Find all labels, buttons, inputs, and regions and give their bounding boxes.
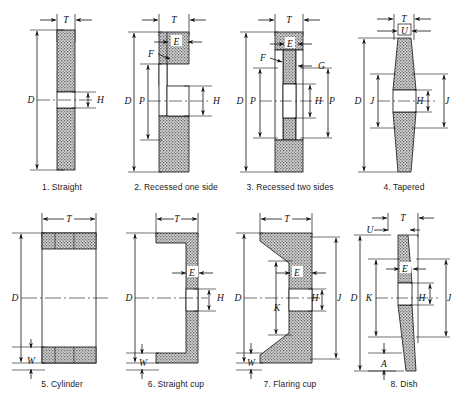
shape-drawing-2: T E	[118, 6, 234, 186]
shape-drawing-3: T E	[232, 6, 348, 186]
dim-label-J: J	[447, 293, 452, 303]
wheel-taper-lower	[393, 112, 416, 172]
shape-caption-8: 8. Dish	[346, 379, 462, 389]
arbor-hole	[186, 289, 198, 311]
dim-label-T: T	[174, 214, 180, 224]
dim-E-8: E	[386, 262, 426, 274]
dim-label-D: D	[125, 293, 133, 303]
shape-drawing-8: T U E	[346, 203, 462, 383]
wheel-cap-bottom	[275, 140, 303, 172]
dim-label-H: H	[416, 96, 425, 106]
arbor-hole	[398, 283, 412, 305]
dim-label-H: H	[212, 96, 221, 106]
wheel-body-upper	[57, 30, 75, 92]
dim-label-W: W	[27, 356, 36, 366]
shape-cell-8-dish: T U E	[346, 203, 462, 409]
wheel-body-lower	[159, 116, 189, 172]
dim-label-D: D	[350, 293, 358, 303]
recess-void-right	[296, 50, 303, 140]
dim-label-E: E	[293, 268, 300, 278]
dim-label-F: F	[259, 53, 266, 63]
dim-P-2: P	[138, 64, 162, 140]
dim-W-7: W	[236, 343, 262, 379]
dim-label-E: E	[173, 37, 180, 47]
dim-label-U: U	[401, 26, 409, 36]
dim-label-D: D	[236, 96, 244, 106]
shape-cell-1-straight: T D	[4, 6, 120, 212]
shape-caption-4: 4. Tapered	[346, 182, 462, 192]
dim-label-D: D	[27, 95, 35, 105]
dim-label-D: D	[11, 293, 19, 303]
dim-label-H: H	[314, 96, 323, 106]
recess-void	[159, 64, 167, 116]
dim-D-4: D	[354, 38, 398, 172]
dim-D-3: D	[236, 32, 278, 172]
dim-label-H: H	[96, 95, 105, 105]
shape-cell-3-recessed-two-sides: T E	[232, 6, 348, 212]
wheel-taper-upper	[393, 38, 416, 90]
dim-U-4: U	[377, 24, 431, 36]
shape-caption-2: 2. Recessed one side	[118, 182, 234, 192]
recess-void-left	[275, 50, 283, 140]
shape-drawing-4: T U D	[346, 6, 462, 186]
shape-cell-5-cylinder: T D	[4, 203, 120, 409]
dim-label-T: T	[66, 214, 72, 224]
dim-label-P: P	[138, 96, 145, 106]
shape-cell-4-tapered: T U D	[346, 6, 462, 212]
shape-caption-3: 3. Recessed two sides	[232, 182, 348, 192]
cylinder-wall-bottom	[42, 347, 96, 363]
dim-W-5: W	[12, 339, 45, 379]
shape-drawing-7: T E D	[232, 203, 348, 383]
dim-label-K: K	[365, 293, 373, 303]
dim-label-U: U	[367, 225, 375, 235]
dim-label-D: D	[234, 293, 242, 303]
dim-label-J-left: J	[370, 96, 375, 106]
dim-label-G: G	[318, 61, 325, 71]
dim-label-A: A	[380, 359, 387, 369]
dim-label-K: K	[273, 303, 281, 313]
dim-label-T: T	[400, 213, 406, 223]
dim-label-E: E	[188, 268, 195, 278]
shape-drawing-1: T D	[4, 6, 120, 186]
dim-label-E: E	[286, 39, 293, 49]
wheel-body-lower	[57, 108, 75, 170]
dim-label-T: T	[63, 15, 69, 25]
shape-drawing-5: T D	[4, 203, 120, 383]
dim-E-7: E	[276, 266, 326, 278]
dim-A-8: A	[368, 343, 404, 380]
dim-label-T: T	[171, 15, 177, 25]
dim-E-6: E	[172, 266, 213, 278]
arbor-hole	[289, 289, 312, 311]
dim-label-J-right: J	[445, 96, 450, 106]
dim-label-H: H	[216, 293, 225, 303]
dim-label-D: D	[124, 96, 132, 106]
shape-caption-1: 1. Straight	[4, 182, 120, 192]
dim-D-8: D	[350, 235, 396, 371]
dim-label-H: H	[418, 293, 427, 303]
wheel-web-upper	[283, 50, 296, 84]
dim-label-H: H	[311, 293, 320, 303]
dim-label-F: F	[147, 49, 154, 59]
shape-caption-6: 6. Straight cup	[118, 379, 234, 389]
dim-label-T: T	[284, 214, 290, 224]
dim-label-J: J	[337, 293, 342, 303]
dim-T-7: T	[260, 213, 312, 235]
shape-cell-2-recessed-one-side: T E	[118, 6, 234, 212]
dim-P-left-3: P	[249, 68, 278, 138]
dim-label-P-left: P	[249, 96, 256, 106]
shape-drawing-6: T E	[118, 203, 234, 383]
dim-W-6: W	[126, 344, 159, 379]
dim-label-T: T	[401, 14, 407, 24]
shape-caption-7: 7. Flaring cup	[232, 379, 348, 389]
dim-label-T: T	[286, 15, 292, 25]
dim-label-P-right: P	[328, 96, 335, 106]
grinding-wheel-shapes-figure: T D	[0, 0, 465, 413]
dim-H-6: H	[194, 289, 225, 311]
cylinder-wall-top	[42, 233, 96, 249]
dim-label-W: W	[139, 358, 148, 368]
dim-H-8: H	[410, 283, 434, 305]
dish-body-lower	[398, 305, 416, 371]
dim-U-8: U	[367, 225, 420, 235]
dim-label-W: W	[247, 358, 256, 368]
shape-cell-7-flaring-cup: T E D	[232, 203, 348, 409]
